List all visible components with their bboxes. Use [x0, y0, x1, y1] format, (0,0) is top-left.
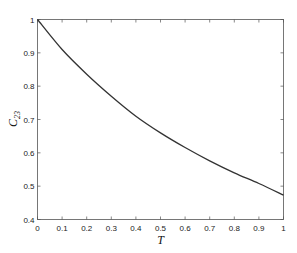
x-tick-label: 0.8 — [229, 224, 241, 233]
x-tick-label: 0.7 — [204, 224, 216, 233]
y-tick-label: 0.6 — [23, 149, 35, 158]
x-tick-label: 0.4 — [130, 224, 142, 233]
y-axis-label: C23 — [6, 111, 22, 127]
x-tick-label: 0.6 — [180, 224, 192, 233]
x-tick-label: 0.3 — [106, 224, 118, 233]
x-tick-label: 0.2 — [81, 224, 93, 233]
x-tick-label: 0.9 — [253, 224, 265, 233]
x-tick-label: 0 — [35, 224, 40, 233]
y-tick-label: 0.7 — [23, 116, 35, 125]
y-tick-label: 0.4 — [23, 216, 35, 225]
x-axis-label: T — [157, 233, 165, 247]
x-tick-label: 0.5 — [155, 224, 167, 233]
y-tick-label: 0.9 — [23, 49, 35, 58]
plot-area — [38, 20, 284, 220]
y-tick-label: 1 — [30, 16, 35, 25]
line-chart: 00.10.20.30.40.50.60.70.80.91 0.40.50.60… — [0, 0, 297, 253]
y-tick-label: 0.8 — [23, 82, 35, 91]
x-tick-label: 1 — [281, 224, 286, 233]
x-tick-label: 0.1 — [57, 224, 69, 233]
y-tick-label: 0.5 — [23, 182, 35, 191]
